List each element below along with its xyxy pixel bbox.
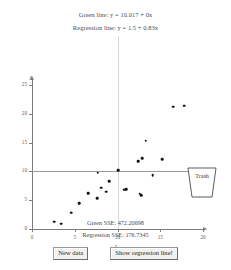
- show-regression-line-button[interactable]: Show regression line!: [110, 247, 178, 260]
- regression-line-equation: Regression line: y = 1.5 + 0.83x: [0, 25, 231, 31]
- data-point[interactable]: [78, 202, 81, 205]
- data-point[interactable]: [125, 188, 128, 191]
- new-data-button[interactable]: New data: [53, 247, 88, 260]
- data-point[interactable]: [97, 171, 100, 174]
- y-tick-label: 0: [14, 226, 27, 231]
- y-tick-label: 5: [14, 198, 27, 203]
- y-tick-label: 20: [14, 111, 27, 116]
- data-point[interactable]: [137, 160, 140, 163]
- data-point[interactable]: [172, 106, 175, 109]
- y-tick-label: 25: [14, 82, 27, 87]
- data-point[interactable]: [70, 212, 73, 215]
- data-point[interactable]: [140, 194, 143, 197]
- y-tick-label: 15: [14, 140, 27, 145]
- data-point[interactable]: [117, 169, 120, 172]
- data-point[interactable]: [87, 192, 90, 195]
- trash-label: Trash: [182, 173, 222, 179]
- regression-sse-readout: Regression SSE: 176.7345: [0, 232, 231, 238]
- y-axis-label: y: [30, 75, 32, 80]
- data-point[interactable]: [108, 180, 111, 183]
- vertical-guide: [118, 36, 119, 229]
- data-point[interactable]: [105, 190, 108, 193]
- y-axis: [32, 80, 33, 230]
- data-point[interactable]: [96, 197, 99, 200]
- y-tick-mark: [29, 200, 32, 201]
- green-sse-readout: Green SSE: 472.20698: [0, 220, 231, 226]
- button-bar: New data Show regression line!: [0, 247, 231, 260]
- data-point[interactable]: [151, 174, 154, 177]
- y-tick-mark: [29, 229, 32, 230]
- data-point[interactable]: [100, 186, 103, 189]
- y-tick-mark: [29, 85, 32, 86]
- data-point[interactable]: [183, 104, 186, 107]
- applet-root: Green line: y = 10.017 + 0x Regression l…: [0, 0, 231, 270]
- y-tick-label: 10: [14, 169, 27, 174]
- trash-shape-icon: [182, 166, 222, 199]
- green-line-equation: Green line: y = 10.017 + 0x: [0, 12, 231, 18]
- data-point[interactable]: [161, 158, 164, 161]
- y-tick-mark: [29, 114, 32, 115]
- data-point[interactable]: [144, 140, 147, 143]
- trash-can[interactable]: Trash: [182, 166, 222, 199]
- data-point[interactable]: [141, 157, 144, 160]
- y-tick-mark: [29, 143, 32, 144]
